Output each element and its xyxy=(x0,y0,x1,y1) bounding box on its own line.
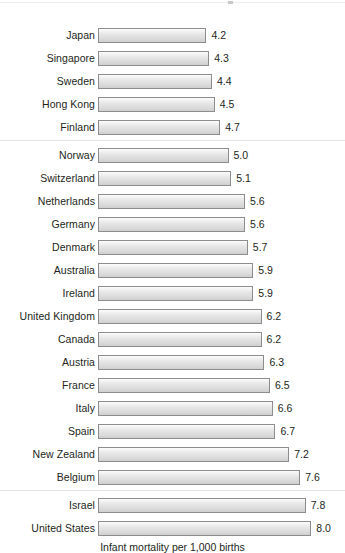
value-bar xyxy=(98,286,253,301)
value-bar xyxy=(98,194,245,209)
chart-row: Australia5.9 xyxy=(0,259,345,282)
chart-row: Ireland5.9 xyxy=(0,282,345,305)
value-bar xyxy=(98,240,248,255)
category-label: United States xyxy=(31,517,95,540)
category-label: France xyxy=(62,374,95,397)
category-label: New Zealand xyxy=(33,443,95,466)
category-label: Denmark xyxy=(52,236,95,259)
value-label: 8.0 xyxy=(316,517,331,540)
value-bar xyxy=(98,401,273,416)
category-label: Norway xyxy=(59,144,95,167)
chart-row: Sweden4.4 xyxy=(0,70,345,93)
value-bar xyxy=(98,120,220,135)
category-label: Austria xyxy=(62,351,95,374)
value-bar xyxy=(98,171,231,186)
group-divider xyxy=(0,490,345,491)
value-label: 6.5 xyxy=(275,374,290,397)
chart-row: Netherlands5.6 xyxy=(0,190,345,213)
value-label: 4.5 xyxy=(220,93,235,116)
category-label: Italy xyxy=(75,397,95,420)
category-label: Hong Kong xyxy=(42,93,95,116)
category-label: Israel xyxy=(69,494,95,517)
value-label: 5.0 xyxy=(234,144,249,167)
chart-row: New Zealand7.2 xyxy=(0,443,345,466)
chart-row: Japan4.2 xyxy=(0,24,345,47)
value-label: 5.6 xyxy=(250,190,265,213)
chart-row: Belgium7.6 xyxy=(0,466,345,489)
value-bar xyxy=(98,263,253,278)
value-label: 5.6 xyxy=(250,213,265,236)
chart-row: Singapore4.3 xyxy=(0,47,345,70)
chart-row: Norway5.0 xyxy=(0,144,345,167)
chart-row: Spain6.7 xyxy=(0,420,345,443)
chart-row: United States8.0 xyxy=(0,517,345,540)
value-bar xyxy=(98,74,212,89)
category-label: Singapore xyxy=(47,47,95,70)
value-label: 6.6 xyxy=(278,397,293,420)
chart-row: Canada6.2 xyxy=(0,328,345,351)
value-bar xyxy=(98,28,206,43)
value-bar xyxy=(98,217,245,232)
chart-row: Italy6.6 xyxy=(0,397,345,420)
value-bar xyxy=(98,470,300,485)
category-label: Ireland xyxy=(63,282,95,305)
value-label: 4.3 xyxy=(214,47,229,70)
value-bar xyxy=(98,498,306,513)
value-label: 7.6 xyxy=(305,466,320,489)
x-axis-title: Infant mortality per 1,000 births xyxy=(0,541,345,553)
category-label: Netherlands xyxy=(38,190,95,213)
category-label: Australia xyxy=(54,259,95,282)
category-label: Finland xyxy=(60,116,95,139)
category-label: Spain xyxy=(68,420,95,443)
value-label: 6.7 xyxy=(280,420,295,443)
value-label: 7.8 xyxy=(311,494,326,517)
value-bar xyxy=(98,97,215,112)
category-label: United Kingdom xyxy=(20,305,95,328)
value-bar xyxy=(98,355,264,370)
value-bar xyxy=(98,378,270,393)
category-label: Canada xyxy=(58,328,95,351)
chart-row: Denmark5.7 xyxy=(0,236,345,259)
value-label: 5.9 xyxy=(258,282,273,305)
category-label: Sweden xyxy=(57,70,95,93)
value-label: 6.3 xyxy=(269,351,284,374)
chart-row: Finland4.7 xyxy=(0,116,345,139)
chart-row: France6.5 xyxy=(0,374,345,397)
value-bar xyxy=(98,332,262,347)
value-bar xyxy=(98,148,229,163)
category-label: Belgium xyxy=(57,466,95,489)
top-divider xyxy=(0,2,345,3)
top-divider-tick xyxy=(228,1,233,4)
category-label: Switzerland xyxy=(40,167,95,190)
value-label: 4.7 xyxy=(225,116,240,139)
value-bar xyxy=(98,424,275,439)
value-label: 5.1 xyxy=(236,167,251,190)
chart-row: Austria6.3 xyxy=(0,351,345,374)
chart-row: Hong Kong4.5 xyxy=(0,93,345,116)
value-label: 5.9 xyxy=(258,259,273,282)
category-label: Germany xyxy=(51,213,95,236)
chart-row: Switzerland5.1 xyxy=(0,167,345,190)
value-bar xyxy=(98,447,289,462)
value-bar xyxy=(98,309,262,324)
value-label: 7.2 xyxy=(294,443,309,466)
chart-row: Israel7.8 xyxy=(0,494,345,517)
value-bar xyxy=(98,51,209,66)
value-label: 6.2 xyxy=(267,305,282,328)
category-label: Japan xyxy=(66,24,95,47)
value-label: 5.7 xyxy=(253,236,268,259)
chart-row: United Kingdom6.2 xyxy=(0,305,345,328)
value-label: 4.2 xyxy=(211,24,226,47)
value-label: 4.4 xyxy=(217,70,232,93)
group-divider xyxy=(0,140,345,141)
value-label: 6.2 xyxy=(267,328,282,351)
chart-row: Germany5.6 xyxy=(0,213,345,236)
value-bar xyxy=(98,521,311,536)
